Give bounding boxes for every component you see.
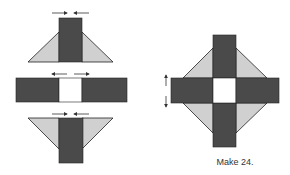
finished-block: [166, 35, 279, 147]
diagram-canvas: [0, 0, 290, 175]
bottom-unit: [28, 114, 113, 163]
caption: Make 24.: [200, 157, 270, 167]
middle-strip: [16, 74, 127, 102]
top-unit: [28, 13, 113, 62]
